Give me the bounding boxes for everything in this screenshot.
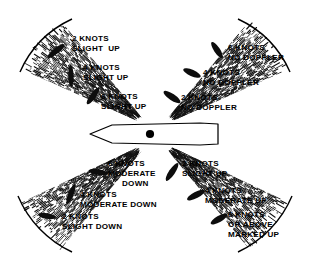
label-ll-6knots-meaning-2: DOWN xyxy=(122,179,149,189)
label-ur-2knots-value: 2 KNOTS xyxy=(181,93,218,103)
label-ll-6knots-value: 6 KNOTS xyxy=(108,159,145,169)
label-lr-2knots-meaning: SLIGHT UP xyxy=(182,169,227,179)
label-ul-4knots-meaning: SLIGHT UP xyxy=(83,73,128,83)
label-lr-6knots-meaning: OR ABOVE xyxy=(228,220,273,230)
label-lr-6knots-meaning-2: MARKED UP xyxy=(228,230,279,240)
blip-lr-6knots xyxy=(209,211,229,226)
label-ur-4knots-value: 4 KNOTS xyxy=(203,68,240,78)
label-ll-2knots-meaning: SLIGHT DOWN xyxy=(62,222,122,232)
label-ul-6knots-value: 6 KNOTS xyxy=(101,92,138,102)
blip-ul-4knots xyxy=(68,65,74,86)
diagram-canvas: 2 KNOTS SLIGHT UP 4 KNOTS SLIGHT UP 6 KN… xyxy=(0,0,310,275)
label-ll-2knots-value: 2 KNOTS xyxy=(62,212,99,222)
label-lr-4knots-value: 4 KNOTS xyxy=(205,186,242,196)
blip-lr-4knots xyxy=(186,187,207,202)
aircraft-center-dot xyxy=(146,130,154,138)
blip-ur-2knots xyxy=(162,89,182,105)
label-ur-2knots-meaning: NO DOPPLER xyxy=(181,103,237,113)
label-ll-6knots-meaning: MODERATE xyxy=(108,169,156,179)
blip-lr-2knots xyxy=(164,162,181,183)
upper-left-sector xyxy=(10,5,145,131)
blip-ur-4knots xyxy=(182,66,202,80)
label-ul-6knots-meaning: SLIGHT UP xyxy=(101,102,146,112)
label-ur-6knots-value: 6 KNOTS xyxy=(228,43,265,53)
label-ul-4knots-value: 4 KNOTS xyxy=(83,63,120,73)
label-lr-4knots-meaning: MODERATE UP xyxy=(205,196,267,206)
label-ur-6knots-meaning: NO DOPPLER xyxy=(228,53,284,63)
label-ur-4knots-meaning: NO DOPPLER xyxy=(203,78,259,88)
label-lr-6knots-value: 6 KNOTS xyxy=(228,210,265,220)
aircraft-planform-icon xyxy=(90,123,218,145)
label-ll-4knots-meaning: MODERATE DOWN xyxy=(80,200,157,210)
label-ul-2knots-value: 2 KNOTS xyxy=(72,34,109,44)
blip-ur-6knots xyxy=(209,40,225,59)
label-ul-2knots-meaning: SLIGHT UP xyxy=(72,44,120,54)
label-ll-4knots-value: 4 KNOTS xyxy=(80,190,117,200)
label-lr-2knots-value: 2 KNOTS xyxy=(182,159,219,169)
